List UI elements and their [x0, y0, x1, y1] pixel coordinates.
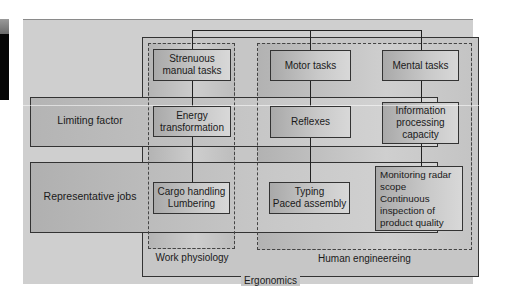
node-strenuous-manual-tasks: Strenuous manual tasks [153, 49, 231, 81]
node-information-processing-capacity: Information processing capacity [382, 102, 459, 144]
connector-col1-b [192, 136, 193, 183]
connector-col1-a [192, 80, 193, 106]
node-cargo-handling-lumbering: Cargo handling Lumbering [153, 182, 230, 214]
node-motor-tasks: Motor tasks [270, 50, 351, 81]
ergonomics-caption: Ergonomics [241, 275, 300, 286]
edge-strip-gray [0, 19, 9, 34]
connector-col1-top [192, 30, 193, 50]
node-energy-transformation: Energy transformation [153, 106, 231, 137]
limiting-factor-label: Limiting factor [31, 114, 149, 126]
ergonomics-caption-wrap: Ergonomics [142, 270, 479, 288]
work-physiology-caption: Work physiology [148, 252, 236, 263]
connector-col2-b [310, 137, 311, 183]
scan-artifact-line [23, 105, 509, 106]
connector-col2-a [310, 80, 311, 107]
connector-col3-a [421, 80, 422, 102]
edge-strip-black [0, 34, 9, 100]
connector-col3-top [421, 30, 422, 50]
human-engineering-caption: Human engineereing [257, 253, 472, 264]
connector-col3-b [421, 143, 422, 167]
node-mental-tasks: Mental tasks [382, 50, 459, 81]
connector-col2-top [310, 30, 311, 50]
representative-jobs-label: Representative jobs [31, 190, 149, 202]
node-reflexes: Reflexes [270, 106, 351, 138]
node-monitoring-inspection: Monitoring radar scope Continuous inspec… [375, 166, 463, 231]
node-typing-paced-assembly: Typing Paced assembly [269, 182, 350, 214]
top-connector-line [192, 30, 422, 31]
